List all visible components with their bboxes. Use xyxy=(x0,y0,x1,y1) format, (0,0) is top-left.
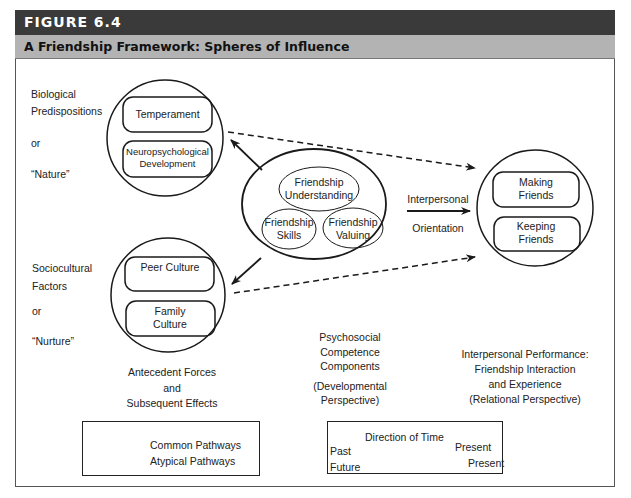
label-or-2: or xyxy=(32,305,41,318)
legend-common-label: Common Pathways xyxy=(150,439,241,452)
peer-culture-label: Peer Culture xyxy=(138,261,202,274)
psychosocial-line-3: Components xyxy=(305,359,395,374)
label-nature: “Nature” xyxy=(31,168,70,181)
label-predispositions: Predispositions xyxy=(31,105,102,118)
time-past: Past xyxy=(330,445,351,458)
time-legend-title: Direction of Time xyxy=(365,431,444,444)
time-present-2: Present xyxy=(468,457,504,470)
interpersonal-line-3: and Experience xyxy=(455,377,595,392)
antecedent-line-1: Antecedent Forces xyxy=(112,365,232,381)
psychosocial-line-5: Perspective) xyxy=(305,393,395,408)
antecedent-line-2: and xyxy=(112,381,232,397)
psychosocial-line-1: Psychosocial xyxy=(305,330,395,345)
skills-label: Friendship Skills xyxy=(262,216,316,242)
antecedent-caption: Antecedent Forces and Subsequent Effects xyxy=(112,365,232,412)
arrow-to-nurture xyxy=(232,258,261,284)
legend-atypical-label: Atypical Pathways xyxy=(150,455,235,468)
orientation-label: Orientation xyxy=(398,222,478,235)
interpersonal-label: Interpersonal xyxy=(398,193,478,206)
label-sociocultural: Sociocultural xyxy=(32,262,92,275)
label-nurture: “Nurture” xyxy=(32,335,74,348)
antecedent-line-3: Subsequent Effects xyxy=(112,396,232,412)
temperament-label: Temperament xyxy=(123,108,212,121)
family-culture-label: Family Culture xyxy=(138,305,202,331)
interpersonal-line-1: Interpersonal Performance: xyxy=(455,347,595,362)
interpersonal-line-2: Friendship Interaction xyxy=(455,362,595,377)
competence-ellipse xyxy=(242,149,386,259)
label-factors: Factors xyxy=(32,280,67,293)
understanding-label: Friendship Understanding xyxy=(284,176,354,202)
time-present-1: Present xyxy=(455,441,491,454)
interpersonal-caption: Interpersonal Performance: Friendship In… xyxy=(455,347,595,407)
valuing-label: Friendship Valuing xyxy=(324,216,382,242)
label-biological: Biological xyxy=(31,88,76,101)
psychosocial-line-2: Competence xyxy=(305,345,395,360)
time-future: Future xyxy=(330,461,360,474)
interpersonal-line-4: (Relational Perspective) xyxy=(455,392,595,407)
label-or-1: or xyxy=(31,137,40,150)
dashed-nurture-to-performance xyxy=(234,257,475,293)
making-friends-label: Making Friends xyxy=(505,176,567,202)
keeping-friends-label: Keeping Friends xyxy=(505,220,567,246)
arrow-to-nature xyxy=(231,140,262,170)
psychosocial-caption: Psychosocial Competence Components (Deve… xyxy=(305,330,395,408)
psychosocial-line-4: (Developmental xyxy=(305,379,395,394)
neuro-label: Neuropsychological Development xyxy=(123,146,212,170)
